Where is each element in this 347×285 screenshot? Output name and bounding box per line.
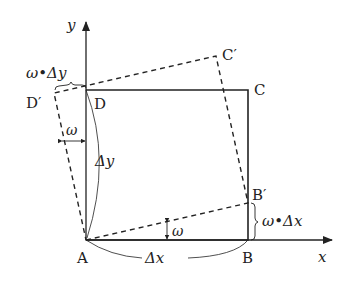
point-d-prime-label: D′ xyxy=(26,94,42,112)
omega-delta-y-label: ω•Δy xyxy=(26,64,67,82)
delta-x-arc-left xyxy=(86,240,142,258)
point-b-prime-label: B′ xyxy=(252,186,267,204)
delta-x-label: Δx xyxy=(144,249,165,267)
x-axis-label: x xyxy=(318,248,327,266)
point-d-label: D xyxy=(94,95,106,113)
delta-x-arc-right xyxy=(188,240,248,258)
delta-y-label: Δy xyxy=(94,152,115,170)
shear-diagram: y x A B C D B′ C′ D′ Δy Δx ω ω ω•Δx ω•Δy xyxy=(0,0,347,285)
point-c-label: C xyxy=(254,81,265,99)
omega-delta-y-brace xyxy=(55,82,86,90)
omega-delta-x-brace xyxy=(251,203,258,240)
omega-delta-x-label: ω•Δx xyxy=(262,212,303,230)
omega-left-label: ω xyxy=(66,122,78,138)
y-axis-label: y xyxy=(66,16,76,34)
deformed-shape xyxy=(54,56,248,240)
point-b-label: B xyxy=(242,249,253,267)
point-c-prime-label: C′ xyxy=(222,46,237,64)
point-a-label: A xyxy=(76,249,88,267)
omega-bottom-label: ω xyxy=(172,223,184,239)
